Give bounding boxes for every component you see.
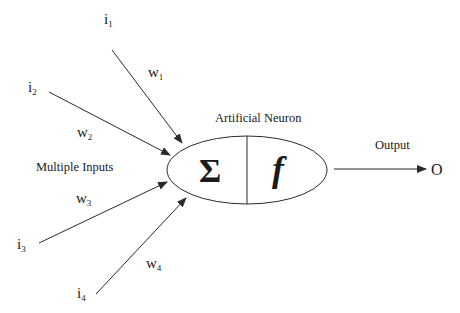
weight-label-3: w3 [76,191,91,208]
neuron-title: Artificial Neuron [215,112,301,125]
input-arrow-1 [112,50,182,143]
activation-function-symbol: f [272,151,284,187]
weight-label-1: w1 [148,65,163,82]
summation-symbol: Σ [199,154,221,188]
diagram-graphics [0,0,460,313]
input-label-2: i2 [28,80,37,97]
output-label: Output [375,139,410,152]
input-label-4: i4 [77,286,86,303]
output-symbol: O [431,162,443,178]
weight-label-4: w4 [146,256,161,273]
input-label-3: i3 [17,237,26,254]
input-arrow-3 [39,182,167,243]
input-arrow-2 [49,92,170,155]
group-label: Multiple Inputs [36,161,113,174]
neuron-diagram: i1 i2 i3 i4 w1 w2 w3 w4 Multiple Inputs … [0,0,460,313]
input-label-1: i1 [104,12,113,29]
input-arrow-4 [96,198,186,294]
weight-label-2: w2 [77,125,92,142]
